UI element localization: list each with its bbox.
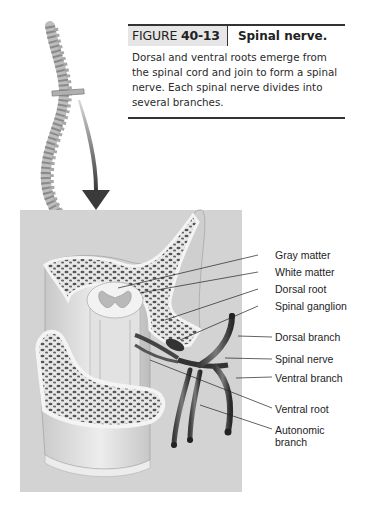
- label-dorsal-branch: Dorsal branch: [275, 331, 340, 343]
- spinal-cord: [87, 282, 143, 390]
- label-autonomic-line1: Autonomic: [275, 424, 325, 436]
- label-gray-matter: Gray matter: [275, 249, 330, 261]
- label-ventral-branch: Ventral branch: [275, 372, 343, 384]
- label-dorsal-root: Dorsal root: [275, 283, 326, 295]
- label-ventral-root: Ventral root: [275, 403, 329, 415]
- label-white-matter: White matter: [275, 266, 335, 278]
- label-spinal-nerve: Spinal nerve: [275, 353, 333, 365]
- label-autonomic-line2: branch: [275, 436, 325, 448]
- label-autonomic-branch: Autonomic branch: [275, 424, 325, 448]
- label-spinal-ganglion: Spinal ganglion: [275, 300, 347, 312]
